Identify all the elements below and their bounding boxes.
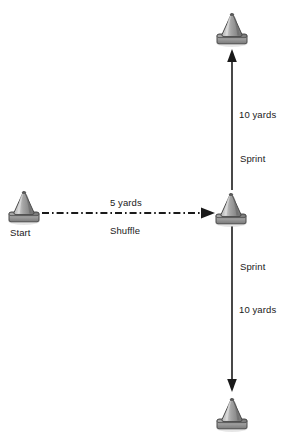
path-layer bbox=[0, 0, 291, 437]
sprint-up-arrow bbox=[227, 49, 237, 190]
top-action-label: Sprint bbox=[240, 154, 265, 164]
top-cone bbox=[216, 13, 248, 47]
middle-cone bbox=[215, 193, 247, 227]
bottom-distance-label: 10 yards bbox=[239, 305, 276, 315]
sprint-down-arrow bbox=[227, 226, 237, 392]
shuffle-arrow bbox=[42, 208, 215, 219]
shuffle-action-label: Shuffle bbox=[110, 226, 140, 236]
start-cone bbox=[8, 191, 40, 225]
bottom-cone bbox=[216, 398, 248, 432]
shuffle-distance-label: 5 yards bbox=[110, 198, 142, 208]
drill-diagram: Start 10 yards Sprint Sprint 10 yards 5 … bbox=[0, 0, 291, 437]
bottom-action-label: Sprint bbox=[240, 262, 265, 272]
top-distance-label: 10 yards bbox=[239, 110, 276, 120]
start-cone-label: Start bbox=[10, 228, 31, 238]
